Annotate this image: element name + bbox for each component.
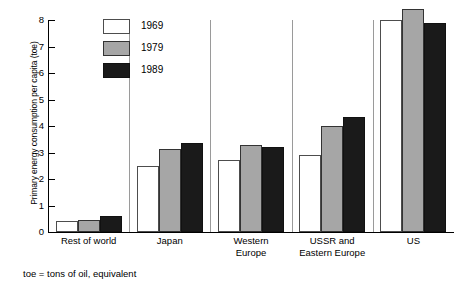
legend-item-1979: 1979 xyxy=(103,39,213,61)
energy-consumption-bar-chart: Primary energy consumption per capita (t… xyxy=(0,0,463,295)
y-tick-label-0: 0 xyxy=(30,227,44,237)
legend-item-1989: 1989 xyxy=(103,61,213,83)
y-tick-label-8: 8 xyxy=(30,15,44,25)
bar xyxy=(343,117,365,232)
x-category-label-line: Japan xyxy=(129,235,210,247)
y-tick-label-2: 2 xyxy=(30,174,44,184)
bar xyxy=(218,160,240,232)
y-tick-label-4: 4 xyxy=(30,121,44,131)
bar xyxy=(240,145,262,232)
y-tick-0 xyxy=(49,232,55,233)
y-tick-label-5: 5 xyxy=(30,95,44,105)
x-category-label: Rest of world xyxy=(48,235,129,247)
x-axis-line xyxy=(48,232,454,233)
legend-swatch-1989 xyxy=(103,63,130,78)
bar xyxy=(78,220,100,232)
bar xyxy=(159,149,181,232)
legend-swatch-1969 xyxy=(103,19,130,34)
x-category-label: US xyxy=(373,235,454,247)
legend-label-1979: 1979 xyxy=(141,42,163,54)
bar xyxy=(380,20,402,232)
y-tick-label-6: 6 xyxy=(30,68,44,78)
y-tick-label-1: 1 xyxy=(30,201,44,211)
x-category-label-line: Rest of world xyxy=(48,235,129,247)
x-category-label-line: Western xyxy=(210,235,291,247)
bar xyxy=(181,143,203,232)
legend-label-1989: 1989 xyxy=(141,64,163,76)
legend-label-1969: 1969 xyxy=(141,20,163,32)
legend-item-1969: 1969 xyxy=(103,17,213,39)
x-category-label-line: Eastern Europe xyxy=(292,247,373,259)
y-tick-label-7: 7 xyxy=(30,42,44,52)
legend-swatch-1979 xyxy=(103,41,130,56)
bar xyxy=(299,155,321,232)
bar xyxy=(321,126,343,232)
y-axis-tick-labels: 012345678 xyxy=(28,20,44,233)
x-category-label: USSR andEastern Europe xyxy=(292,235,373,258)
x-category-label-line: USSR and xyxy=(292,235,373,247)
bar xyxy=(262,147,284,232)
bar xyxy=(137,166,159,232)
x-category-label-line: Europe xyxy=(210,247,291,259)
legend: 196919791989 xyxy=(103,17,213,83)
bar xyxy=(402,9,424,232)
y-tick-label-3: 3 xyxy=(30,148,44,158)
x-category-label-line: US xyxy=(373,235,454,247)
bar xyxy=(100,216,122,232)
bar xyxy=(56,221,78,232)
x-category-label: WesternEurope xyxy=(210,235,291,258)
bar xyxy=(424,23,446,232)
x-category-label: Japan xyxy=(129,235,210,247)
footnote: toe = tons of oil, equivalent xyxy=(23,268,136,280)
